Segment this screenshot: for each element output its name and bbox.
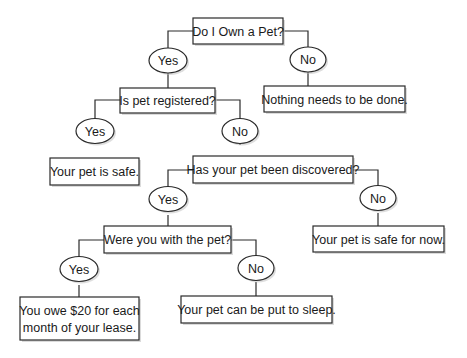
answer-own-no: No (290, 47, 328, 74)
result-owe-fee-line1: You owe $20 for each (19, 304, 140, 318)
result-nothing-needed: Nothing needs to be done. (261, 86, 408, 114)
connector-own-no (283, 31, 308, 47)
question-registered: Is pet registered? (119, 88, 217, 115)
decision-tree-diagram: Do I Own a Pet? Nothing needs to be done… (0, 0, 467, 358)
answer-discovered-no: No (360, 186, 398, 213)
question-with-pet-label: Were you with the pet? (104, 233, 232, 247)
question-discovered: Has your pet been discovered? (186, 156, 359, 185)
question-registered-label: Is pet registered? (119, 94, 216, 108)
result-pet-safe-label: Your pet is safe. (50, 165, 139, 179)
question-with-pet: Were you with the pet? (104, 226, 233, 255)
answer-with-pet-no-label: No (248, 262, 264, 276)
answer-discovered-no-label: No (370, 192, 386, 206)
result-owe-fee-line2: month of your lease. (23, 321, 136, 335)
answer-own-yes: Yes (149, 48, 189, 75)
result-put-to-sleep-label: Your pet can be put to sleep. (177, 303, 336, 317)
question-own-pet: Do I Own a Pet? (192, 18, 285, 46)
answer-own-no-label: No (300, 53, 316, 67)
result-safe-for-now: Your pet is safe for now. (312, 226, 446, 254)
answer-registered-yes-label: Yes (85, 125, 105, 139)
result-pet-safe: Your pet is safe. (50, 158, 141, 187)
question-discovered-label: Has your pet been discovered? (186, 163, 359, 177)
result-nothing-needed-label: Nothing needs to be done. (261, 93, 408, 107)
answer-discovered-yes: Yes (149, 187, 189, 214)
result-put-to-sleep: Your pet can be put to sleep. (177, 296, 336, 325)
answer-discovered-yes-label: Yes (158, 193, 178, 207)
question-own-pet-label: Do I Own a Pet? (192, 25, 284, 39)
answer-registered-yes: Yes (76, 119, 116, 146)
answer-own-yes-label: Yes (158, 54, 178, 68)
answer-with-pet-yes-label: Yes (69, 263, 89, 277)
answer-registered-no: No (222, 119, 260, 146)
result-owe-fee: You owe $20 for each month of your lease… (19, 297, 141, 342)
connector-withpet-no (231, 240, 256, 256)
answer-with-pet-no: No (238, 256, 276, 283)
answer-registered-no-label: No (232, 125, 248, 139)
connector-own-yes (168, 31, 193, 48)
answer-with-pet-yes: Yes (60, 257, 100, 284)
result-safe-for-now-label: Your pet is safe for now. (312, 233, 445, 247)
